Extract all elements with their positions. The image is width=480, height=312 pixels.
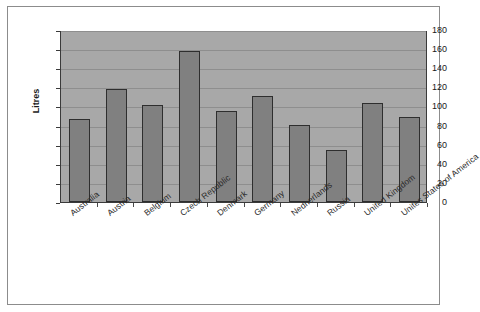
x-axis-tick-mark (244, 203, 245, 207)
x-axis-tick-mark (427, 203, 428, 207)
x-axis-tick-mark (280, 203, 281, 207)
bar (362, 103, 383, 202)
plot-area (60, 31, 427, 203)
x-axis-tick-mark (317, 203, 318, 207)
x-axis-tick-mark (207, 203, 208, 207)
y-axis-tick-mark (56, 203, 60, 204)
bar (252, 96, 273, 202)
x-axis-tick-mark (354, 203, 355, 207)
x-axis-tick-mark (170, 203, 171, 207)
y-axis-title: Litres (31, 71, 41, 131)
x-axis-tick-mark (133, 203, 134, 207)
x-axis-tick-mark (390, 203, 391, 207)
bar-series (61, 32, 426, 202)
bar (142, 105, 163, 202)
bar (106, 89, 127, 202)
bar (69, 119, 90, 202)
bar (289, 125, 310, 202)
x-axis-tick-mark (97, 203, 98, 207)
bar (179, 51, 200, 202)
